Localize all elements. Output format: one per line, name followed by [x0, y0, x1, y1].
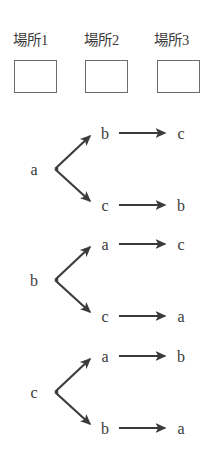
place-label-3: 場所3 — [154, 33, 189, 48]
place-label-1: 場所1 — [13, 33, 48, 48]
tree-1-root-node: a — [26, 162, 42, 178]
tree-2-branch-down-from-node: c — [97, 309, 113, 325]
tree-1-branch-down-edge — [56, 169, 90, 201]
tree-3-edges — [56, 356, 165, 428]
tree-1-branch-up-from-node: b — [97, 126, 113, 142]
tree-3-branch-up-from-node: a — [97, 349, 113, 365]
tree-2-branch-down-to-node: a — [173, 309, 189, 325]
tree-1-branch-down-from-node: c — [97, 198, 113, 214]
tree-2-branch-up-to-node: c — [173, 237, 189, 253]
tree-3-root-node: c — [26, 385, 42, 401]
tree-1-branch-up-edge — [56, 136, 90, 169]
permutation-tree-figure: 場所1 場所2 場所3 — [0, 0, 211, 460]
tree-2-edges — [56, 244, 165, 316]
tree-2-branch-up-edge — [56, 247, 90, 280]
tree-3-branch-down-to-node: a — [173, 421, 189, 437]
tree-3-branch-up-to-node: b — [173, 349, 189, 365]
tree-1-branch-down-to-node: b — [173, 198, 189, 214]
place-1-box[interactable] — [14, 60, 57, 93]
tree-1-edges — [56, 133, 165, 205]
tree-2-branch-up-from-node: a — [97, 237, 113, 253]
place-label-2: 場所2 — [84, 33, 119, 48]
tree-3-branch-up-edge — [56, 359, 90, 392]
tree-2-branch-down-edge — [56, 280, 90, 312]
tree-2-root-node: b — [26, 273, 42, 289]
tree-1-branch-up-to-node: c — [173, 126, 189, 142]
place-3-box[interactable] — [157, 60, 200, 93]
tree-3-branch-down-from-node: b — [97, 421, 113, 437]
tree-3-branch-down-edge — [56, 392, 90, 424]
place-2-box[interactable] — [85, 60, 128, 93]
